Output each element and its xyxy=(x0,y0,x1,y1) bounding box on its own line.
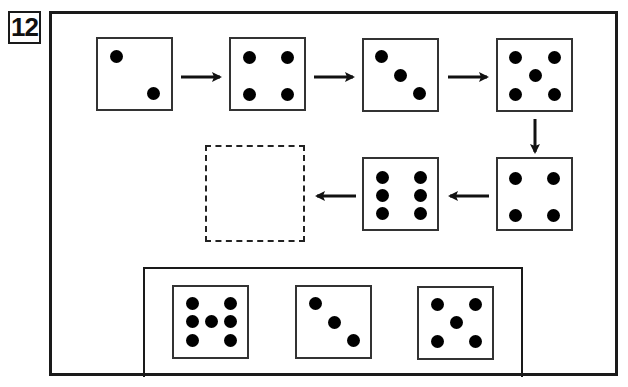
pip xyxy=(224,297,237,310)
pip xyxy=(347,334,360,347)
pip xyxy=(431,335,444,348)
pip xyxy=(431,298,444,311)
pip xyxy=(224,334,237,347)
pip xyxy=(186,297,199,310)
pip xyxy=(469,298,482,311)
pip xyxy=(186,315,199,328)
choice-die-five[interactable] xyxy=(417,286,494,360)
pip xyxy=(205,315,218,328)
pip xyxy=(224,315,237,328)
pip xyxy=(450,316,463,329)
pip xyxy=(469,335,482,348)
choice-die-seven[interactable] xyxy=(172,285,249,359)
pip xyxy=(309,297,322,310)
pip xyxy=(328,316,341,329)
pip xyxy=(186,334,199,347)
choice-die-three[interactable] xyxy=(295,285,372,359)
